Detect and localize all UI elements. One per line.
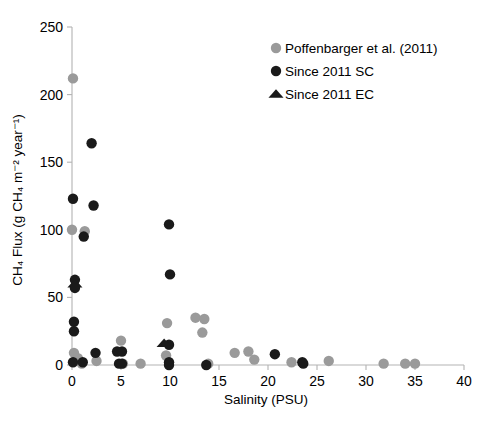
data-point-circle xyxy=(199,314,209,324)
x-tick-label: 30 xyxy=(358,373,374,389)
data-point-circle xyxy=(88,200,98,210)
y-tick-label: 100 xyxy=(40,222,64,238)
legend-item-label[interactable]: Since 2011 EC xyxy=(285,87,374,102)
x-tick-label: 25 xyxy=(309,373,325,389)
data-point-circle xyxy=(117,346,127,356)
data-point-circle xyxy=(69,317,79,327)
data-point-circle xyxy=(135,358,145,368)
data-point-circle xyxy=(165,269,175,279)
legend-marker-circle xyxy=(271,43,281,53)
legend-marker-circle xyxy=(271,66,281,76)
data-point-circle xyxy=(298,358,308,368)
chart-canvas: 050100150200250 0510152025303540 Poffenb… xyxy=(0,0,491,431)
data-point-circle xyxy=(164,219,174,229)
data-point-circle xyxy=(90,348,100,358)
scatter-chart: 050100150200250 0510152025303540 Poffenb… xyxy=(0,0,491,431)
y-axis-title: CH₄ Flux (g CH₄ m⁻² year⁻¹) xyxy=(10,114,25,285)
y-tick-label: 200 xyxy=(40,87,64,103)
x-tick-label: 10 xyxy=(162,373,178,389)
x-axis-title: Salinity (PSU) xyxy=(224,392,308,407)
data-point-circle xyxy=(400,358,410,368)
x-tick-label: 5 xyxy=(117,373,125,389)
data-point-circle xyxy=(164,360,174,370)
data-point-circle xyxy=(68,194,78,204)
data-point-circle xyxy=(190,312,200,322)
data-point-circle xyxy=(69,326,79,336)
x-tick-label: 0 xyxy=(68,373,76,389)
data-point-circle xyxy=(116,335,126,345)
data-point-circle xyxy=(79,231,89,241)
data-point-circle xyxy=(86,138,96,148)
data-point-circle xyxy=(286,357,296,367)
legend-item-label[interactable]: Poffenbarger et al. (2011) xyxy=(285,41,438,56)
data-point-circle xyxy=(270,349,280,359)
y-tick-label: 0 xyxy=(55,357,63,373)
data-point-circle xyxy=(249,354,259,364)
data-point-circle xyxy=(78,357,88,367)
data-point-circle xyxy=(410,358,420,368)
data-point-circle xyxy=(162,318,172,328)
x-tick-label: 40 xyxy=(456,373,472,389)
legend-item-label[interactable]: Since 2011 SC xyxy=(285,64,374,79)
data-point-circle xyxy=(201,360,211,370)
x-tick-label: 20 xyxy=(260,373,276,389)
data-point-circle xyxy=(197,327,207,337)
data-point-circle xyxy=(324,356,334,366)
y-tick-label: 250 xyxy=(40,19,64,35)
y-tick-label: 50 xyxy=(47,289,63,305)
x-tick-label: 15 xyxy=(211,373,227,389)
y-tick-label: 150 xyxy=(40,154,64,170)
data-point-circle xyxy=(67,225,77,235)
data-point-circle xyxy=(378,358,388,368)
x-tick-label: 35 xyxy=(407,373,423,389)
data-point-circle xyxy=(117,358,127,368)
data-point-circle xyxy=(229,348,239,358)
data-point-circle xyxy=(68,73,78,83)
data-point-circle xyxy=(68,357,78,367)
